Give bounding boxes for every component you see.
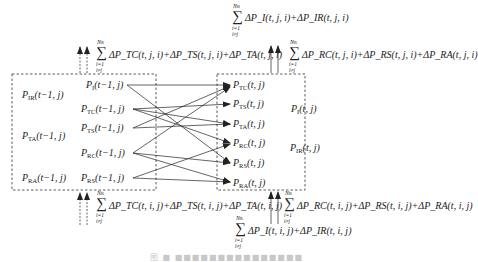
sum-lower-constraint: i≠j xyxy=(235,243,241,249)
figure-caption: 图 ■ ■■■■■■■■■■■■■■■ xyxy=(150,251,303,262)
sigma-symbol: ∑ xyxy=(284,196,295,211)
node-p-rs-prev: PRS(t−1, j) xyxy=(81,173,124,186)
node-p-rc: PRC(t, j) xyxy=(233,138,265,151)
node-p-tc-prev: PTC(t−1, j) xyxy=(81,104,124,117)
flow-expression: ΔP_TC(t, i, j)+ΔP_TS(t, i, j)+ΔP_TA(t, i… xyxy=(109,201,282,211)
label-p-ra-prev: PRA(t−1, j) xyxy=(22,173,66,186)
node-p-tc: PTC(t, j) xyxy=(233,80,265,93)
label-p-ir-prev: PIR(t−1, j) xyxy=(22,90,64,103)
node-p-ts: PTS(t, j) xyxy=(233,99,264,112)
flow-expression: ΔP_RC(t, j, i)+ΔP_RS(t, j, i)+ΔP_RA(t, j… xyxy=(302,50,478,60)
node-p-rc-prev: PRC(t−1, j) xyxy=(81,148,125,161)
sum-lower-constraint: i≠j xyxy=(284,218,290,224)
label-p-i: PI(t, j) xyxy=(291,104,317,117)
node-p-rs: PRS(t, j) xyxy=(233,158,264,171)
label-p-ta-prev: PTA(t−1, j) xyxy=(22,131,65,144)
sum-lower-constraint: i≠j xyxy=(96,218,102,224)
flow-expression: ΔP_RC(t, i, j)+ΔP_RS(t, i, j)+ΔP_RA(t, i… xyxy=(297,201,473,211)
bottom-left-flow-arrows xyxy=(80,193,87,225)
sigma-symbol: ∑ xyxy=(96,45,107,60)
label-p-ir: PIR(t, j) xyxy=(290,143,320,156)
sigma-symbol: ∑ xyxy=(96,196,107,211)
node-p-ta: PTA(t, j) xyxy=(233,119,264,132)
transition-arrows xyxy=(127,85,230,182)
flow-expression: ΔP_I(t, j, i)+ΔP_IR(t, j, i) xyxy=(245,13,348,23)
sum-lower-constraint: i≠j xyxy=(96,67,102,73)
sigma-symbol: ∑ xyxy=(232,9,243,24)
node-p-ts-prev: PTS(t−1, j) xyxy=(81,123,124,136)
top-left-flow-arrows xyxy=(80,47,87,73)
sum-lower-constraint: i≠j xyxy=(232,31,238,37)
node-p-ra: PRA(t, j) xyxy=(233,178,265,191)
sigma-symbol: ∑ xyxy=(235,221,246,236)
flow-expression: ΔP_I(t, i, j)+ΔP_IR(t, i, j) xyxy=(248,226,351,236)
sum-lower-constraint: i≠j xyxy=(289,67,295,73)
sigma-symbol: ∑ xyxy=(289,45,300,60)
flow-expression: ΔP_TC(t, j, i)+ΔP_TS(t, j, i)+ΔP_TA(t, j… xyxy=(109,50,282,60)
node-p-i-prev: PI(t−1, j) xyxy=(86,80,123,93)
